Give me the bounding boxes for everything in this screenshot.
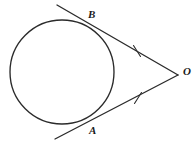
- congruence-tick-OB: [134, 46, 141, 57]
- circle-shape: [10, 20, 114, 124]
- vertex-label-b: B: [88, 9, 95, 20]
- geometry-canvas: [0, 0, 196, 144]
- congruence-tick-OA: [135, 93, 142, 104]
- vertex-label-a: A: [89, 125, 96, 136]
- vertex-label-o: O: [183, 66, 191, 77]
- geometry-figure: B A O: [0, 0, 196, 144]
- tangent-line-through-B: [57, 5, 178, 75]
- tangent-line-through-A: [55, 75, 178, 139]
